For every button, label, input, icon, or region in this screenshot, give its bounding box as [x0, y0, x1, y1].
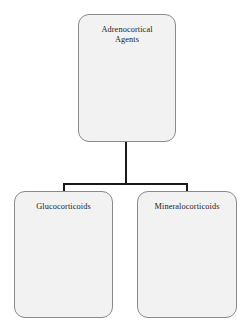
node-glucocorticoids-label: Glucocorticoids: [15, 202, 112, 212]
node-label-line-2: Agents: [79, 35, 175, 45]
node-mineralocorticoids: Mineralocorticoids: [137, 191, 237, 318]
node-mineralocorticoids-label: Mineralocorticoids: [138, 202, 236, 212]
connector-horizontal-bar: [63, 183, 188, 185]
node-label-line-1: Adrenocortical: [79, 25, 175, 35]
node-glucocorticoids: Glucocorticoids: [14, 191, 113, 318]
node-adrenocortical-agents-label: Adrenocortical Agents: [79, 25, 175, 45]
node-adrenocortical-agents: Adrenocortical Agents: [78, 14, 176, 142]
connector-stem-vertical: [125, 141, 127, 185]
diagram-canvas: Adrenocortical Agents Glucocorticoids Mi…: [0, 0, 250, 333]
